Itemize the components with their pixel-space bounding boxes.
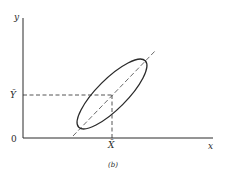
y-axis-label: y — [13, 12, 20, 22]
major-axis-dashed-line — [73, 50, 156, 136]
origin-label: 0 — [11, 134, 17, 144]
bivariate-ellipse-diagram: y x 0 Ȳ X̄ (b) — [0, 0, 227, 179]
x-axis-label: x — [208, 141, 213, 151]
figure-caption: (b) — [108, 161, 118, 169]
x-mean-label: X̄ — [107, 139, 115, 150]
y-mean-label: Ȳ — [10, 89, 17, 100]
